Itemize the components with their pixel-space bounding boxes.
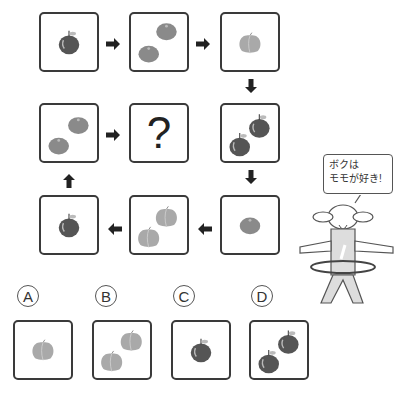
tangerine-icon [222,197,278,253]
dog-character-icon [295,195,398,310]
arrow-down-icon [244,79,258,95]
arrow-up-icon [62,172,76,188]
sequence-box-7 [39,195,99,255]
peach-icon [15,322,71,378]
apple-icon [41,197,97,253]
arrow-left-icon [196,222,212,236]
sequence-box-unknown: ? [129,103,189,163]
option-label-d: D [251,285,273,307]
peach-icon [94,322,150,378]
sequence-box-1 [39,12,99,72]
option-label-c: C [173,285,195,307]
sequence-box-3 [220,12,280,72]
speech-line-1: ボクは [329,158,387,172]
arrow-right-icon [196,37,212,51]
sequence-box-6 [129,195,189,255]
arrow-right-icon [106,37,122,51]
apple-icon [251,322,307,378]
apple-icon [173,322,229,378]
option-d-box[interactable] [249,320,309,380]
option-label-a: A [17,285,39,307]
peach-icon [222,14,278,70]
option-c-box[interactable] [171,320,231,380]
sequence-box-5 [220,195,280,255]
sequence-box-4 [220,103,280,163]
sequence-box-9 [39,103,99,163]
question-mark: ? [131,105,187,161]
sequence-box-2 [129,12,189,72]
arrow-right-icon [106,128,122,142]
option-label-b: B [95,285,117,307]
option-b-box[interactable] [92,320,152,380]
option-a-box[interactable] [13,320,73,380]
speech-line-2: モモが好き! [329,172,387,186]
apple-icon [41,14,97,70]
speech-bubble: ボクは モモが好き! [323,154,393,194]
tangerine-icon [41,105,97,161]
tangerine-icon [131,14,187,70]
apple-icon [222,105,278,161]
peach-icon [131,197,187,253]
arrow-left-icon [106,222,122,236]
arrow-down-icon [244,170,258,186]
